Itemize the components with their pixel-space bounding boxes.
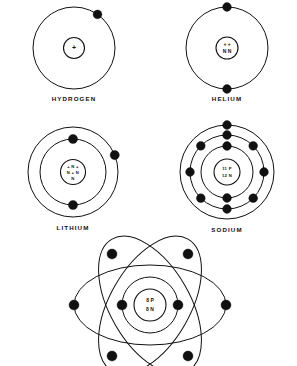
sodium-electron-inner-1 (223, 142, 232, 151)
sodium-electron-middle-4 (249, 194, 258, 203)
atom-diagram-sodium: 11 P 12 N SODIUM (162, 122, 292, 240)
atom-diagram-hydrogen: + HYDROGEN (14, 4, 134, 108)
sodium-nucleus-line-1: 11 P (222, 166, 232, 171)
oxygen-electron-outer-5 (107, 351, 117, 361)
helium-label: HELIUM (167, 95, 287, 102)
hydrogen-label: HYDROGEN (14, 95, 134, 102)
lithium-electron-inner-1 (68, 134, 77, 143)
lithium-nucleus-line-2: N + N (67, 170, 79, 175)
oxygen-electron-outer-1 (69, 300, 79, 310)
helium-nucleus-line-2: N N (223, 48, 232, 54)
oxygen-electron-outer-6 (183, 351, 193, 361)
oxygen-svg: 8 P 8 N (68, 246, 232, 364)
sodium-electron-middle-6 (196, 194, 205, 203)
oxygen-electron-outer-3 (107, 249, 117, 259)
helium-electron-1 (223, 3, 232, 12)
sodium-electron-inner-2 (223, 194, 232, 203)
lithium-electron-inner-2 (68, 200, 77, 209)
helium-electron-2 (223, 85, 232, 94)
atomic-structure-figure: + HYDROGEN + + N N HELIUM + N + N + N N (0, 0, 297, 366)
lithium-nucleus-line-1: + N + (67, 164, 79, 169)
helium-svg: + + N N (167, 4, 287, 108)
lithium-label: LITHIUM (8, 224, 138, 231)
helium-nucleus-line-1: + + (223, 41, 230, 47)
lithium-electron-outer-1 (110, 151, 119, 160)
oxygen-electron-inner-1 (117, 300, 127, 310)
hydrogen-svg: + (14, 4, 134, 108)
lithium-svg: + N + N + N N (8, 124, 138, 238)
sodium-label: SODIUM (162, 226, 292, 233)
sodium-electron-middle-3 (260, 168, 269, 177)
sodium-electron-middle-5 (223, 205, 232, 214)
atom-diagram-oxygen: 8 P 8 N (68, 246, 232, 364)
oxygen-nucleus-line-2: 8 N (146, 306, 154, 312)
atom-diagram-helium: + + N N HELIUM (167, 4, 287, 108)
oxygen-electron-outer-2 (221, 300, 231, 310)
oxygen-electron-outer-4 (183, 249, 193, 259)
sodium-electron-middle-8 (196, 141, 205, 150)
oxygen-nucleus-line-1: 8 P (146, 297, 154, 303)
sodium-nucleus (214, 159, 240, 185)
lithium-nucleus-line-3: N (71, 176, 74, 181)
oxygen-electron-inner-2 (173, 300, 183, 310)
hydrogen-nucleus-line-1: + (72, 44, 76, 51)
sodium-svg: 11 P 12 N (162, 122, 292, 240)
sodium-electron-middle-1 (223, 131, 232, 140)
sodium-electron-outer-1 (223, 121, 232, 130)
sodium-nucleus-line-2: 12 N (222, 173, 232, 178)
atom-diagram-lithium: + N + N + N N LITHIUM (8, 124, 138, 238)
sodium-electron-middle-7 (186, 168, 195, 177)
hydrogen-electron-1 (93, 10, 102, 19)
sodium-electron-middle-2 (249, 141, 258, 150)
